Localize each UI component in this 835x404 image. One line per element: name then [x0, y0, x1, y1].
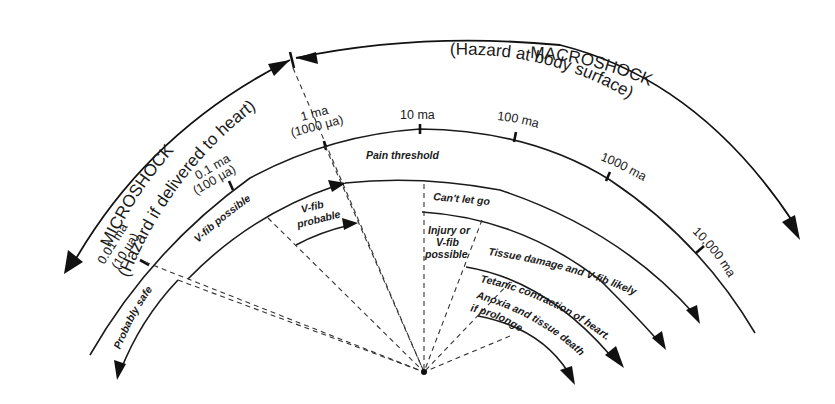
- electric-shock-hazard-diagram: MICROSHOCK (Hazard if delivered to heart…: [0, 0, 835, 404]
- scale-label-100ma: 100 ma: [497, 109, 541, 131]
- label-pain-threshold: Pain threshold: [366, 149, 440, 161]
- macroshock-arrow: [296, 41, 800, 240]
- label-prolonged: if prolonged: [0, 0, 526, 334]
- scale-ticks: [140, 124, 704, 265]
- origin-point: [421, 369, 427, 375]
- diagram-canvas: MICROSHOCK (Hazard if delivered to heart…: [0, 0, 835, 404]
- label-injury-2: V-fib: [436, 236, 460, 248]
- label-injury-1: Injury or: [428, 224, 471, 236]
- label-injury-3: possible: [424, 248, 468, 260]
- label-cant-let-go: Can't let go: [433, 190, 491, 207]
- scale-label-10ma: 10 ma: [400, 108, 435, 122]
- micro-macro-divider-tick: [290, 52, 294, 68]
